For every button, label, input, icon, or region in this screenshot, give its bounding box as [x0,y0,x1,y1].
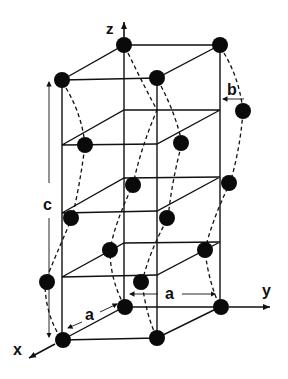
atom [221,175,237,191]
x-axis-label: x [13,341,22,358]
atom [213,299,229,315]
y-axis-label: y [262,282,271,299]
dimension-b: b [223,81,244,99]
a-label-right: a [165,285,174,302]
atom [102,242,118,258]
atom [77,137,93,153]
atom [173,135,189,151]
atom [235,103,251,119]
x-axis-arrow [29,344,55,358]
atom [55,332,71,348]
atom [63,210,79,226]
layer-3 [62,177,220,213]
atom [212,37,228,53]
atom [159,210,175,226]
crystal-structure-diagram: z y x c b a a [0,0,288,379]
a-label-front: a [85,306,94,323]
layer-top [62,45,220,80]
vertical-edges [62,45,220,340]
atom [117,299,133,315]
helix-chains [45,53,243,340]
atom [197,242,213,258]
b-label: b [227,81,237,98]
atom [149,70,165,86]
atom [54,72,70,88]
c-label: c [43,196,52,213]
atom [149,330,165,346]
atom [133,274,149,290]
atom [39,274,55,290]
dimension-c: c [43,82,52,337]
atom [116,37,132,53]
z-axis-label: z [106,20,114,37]
layer-4 [62,242,220,277]
atom [125,177,141,193]
